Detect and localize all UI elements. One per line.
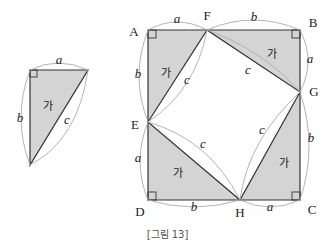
label-EA: b xyxy=(135,66,142,81)
label-HD: b xyxy=(191,199,198,214)
vertex-C: C xyxy=(308,202,317,217)
label-EF: c xyxy=(184,72,190,87)
label-AF: a xyxy=(174,11,181,26)
point-F: F xyxy=(203,8,210,23)
label-CH: a xyxy=(267,199,274,214)
region-label-4: 가 xyxy=(173,167,183,180)
region-label-1: 가 xyxy=(161,67,171,80)
label-GC: b xyxy=(308,130,315,145)
triangle-GCH xyxy=(240,92,300,200)
vertex-D: D xyxy=(135,204,144,219)
point-H: H xyxy=(235,205,244,220)
region-label-2: 가 xyxy=(267,48,277,61)
triangle-AFE xyxy=(148,30,207,122)
label-DE: a xyxy=(135,150,142,165)
label-FG: c xyxy=(245,62,251,77)
label-FB: b xyxy=(251,9,258,24)
figure-caption: [그림 13] xyxy=(0,226,335,241)
small-label-a: a xyxy=(56,52,63,67)
region-label-3: 가 xyxy=(279,157,289,170)
big-square xyxy=(139,20,309,207)
point-G: G xyxy=(309,84,318,99)
small-region-label: 가 xyxy=(43,100,53,113)
small-label-c: c xyxy=(64,112,70,127)
figure-canvas: a b c 가 A F B G E D H C a b a xyxy=(0,0,335,246)
label-BG: a xyxy=(307,51,314,66)
vertex-B: B xyxy=(309,15,318,30)
triangle-FBG xyxy=(207,30,300,92)
point-E: E xyxy=(131,117,139,132)
small-label-b: b xyxy=(17,110,24,125)
vertex-A: A xyxy=(129,24,139,39)
label-HE: c xyxy=(200,136,206,151)
small-triangle xyxy=(21,63,88,165)
label-GH: c xyxy=(259,122,265,137)
triangle-HDE xyxy=(148,122,240,200)
